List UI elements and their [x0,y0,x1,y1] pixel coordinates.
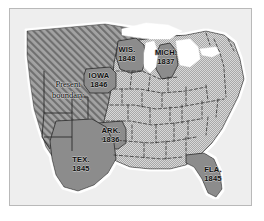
map-frame: WIS. 1848 MICH. 1837 IOWA 1846 ARK. 1836… [9,8,252,206]
lake-superior [122,23,182,39]
state-wisconsin [116,38,146,73]
us-map-graphic [10,9,252,206]
state-iowa [84,67,116,93]
state-florida [186,153,222,197]
figure-page: WIS. 1848 MICH. 1837 IOWA 1846 ARK. 1836… [0,0,264,221]
state-texas [50,119,116,191]
